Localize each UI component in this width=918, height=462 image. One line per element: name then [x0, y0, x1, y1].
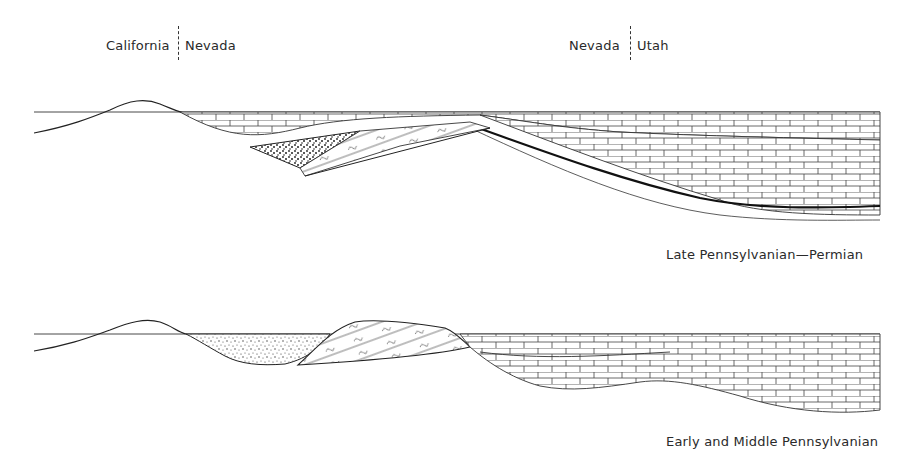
caption-upper: Late Pennsylvanian—Permian	[666, 247, 863, 262]
lower-panel-section	[34, 320, 880, 412]
upper-panel-section	[34, 101, 880, 221]
caption-lower: Early and Middle Pennsylvanian	[666, 434, 878, 449]
cross-section-drawing	[0, 0, 918, 462]
